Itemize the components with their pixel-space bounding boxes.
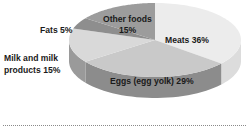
- label-other-line2: 15%: [119, 25, 137, 35]
- label-other-line1: Other foods: [103, 14, 152, 24]
- label-milk-line1: Milk and milk: [4, 53, 58, 63]
- label-milk-line2: products 15%: [4, 65, 61, 75]
- label-eggs: Eggs (egg yolk) 29%: [110, 76, 194, 86]
- pie-tops: [69, 3, 241, 77]
- label-meats: Meats 36%: [165, 35, 209, 45]
- pie-chart: Meats 36% Eggs (egg yolk) 29% Milk and m…: [0, 0, 249, 134]
- label-fats: Fats 5%: [40, 25, 73, 35]
- dotted-divider: [3, 125, 246, 126]
